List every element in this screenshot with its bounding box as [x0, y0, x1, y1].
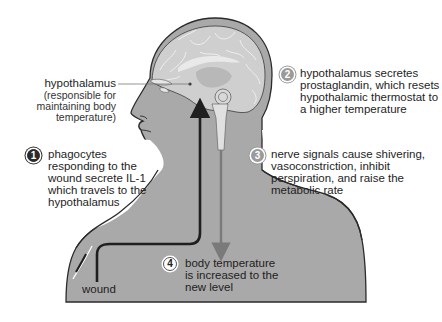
step-3-badge: 3: [251, 149, 264, 162]
cerebellum: [215, 89, 231, 105]
hypothalamus-label: hypothalamus: [30, 77, 116, 89]
step-4-text: body temperature is increased to the new…: [185, 257, 278, 293]
step-2-badge: 2: [281, 68, 294, 81]
hypothalamus-title: hypothalamus: [30, 77, 116, 89]
wound-label: wound: [82, 283, 116, 295]
step-1-badge: 1: [27, 149, 40, 162]
step-1-text: phagocytes responding to the wound secre…: [48, 148, 146, 208]
step-3-text: nerve signals cause shivering, vasoconst…: [271, 148, 425, 196]
step-4-badge: 4: [163, 257, 177, 271]
step-2-text: hypothalamus secretes prostaglandin, whi…: [300, 67, 439, 115]
hypothalamus-note: (responsible for maintaining body temper…: [20, 90, 116, 123]
